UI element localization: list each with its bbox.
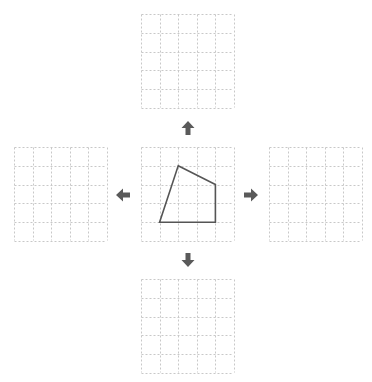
quadrilateral-shape xyxy=(160,166,216,222)
grid-left xyxy=(14,147,107,241)
grid-right xyxy=(269,147,362,241)
grid-bottom xyxy=(141,279,234,373)
arrow-right-icon xyxy=(244,188,258,202)
grid-center xyxy=(141,147,234,241)
grid-top xyxy=(141,14,234,108)
arrow-left-icon xyxy=(116,188,130,202)
arrow-down-icon xyxy=(181,253,195,267)
arrow-up-icon xyxy=(181,121,195,135)
